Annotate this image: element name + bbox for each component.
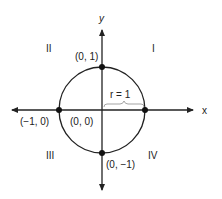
point-left-label: (−1, 0) <box>20 116 49 127</box>
origin-label: (0, 0) <box>70 116 93 127</box>
quadrant-ii-label: II <box>46 43 52 54</box>
radius-brace <box>104 101 144 107</box>
quadrant-i-label: I <box>152 43 155 54</box>
point-left <box>56 107 62 113</box>
x-axis-label: x <box>202 105 207 116</box>
unit-circle-diagram: y x II I III IV (0, 1) (0, −1) (−1, 0) (… <box>0 0 222 199</box>
quadrant-iii-label: III <box>46 150 54 161</box>
point-bottom-label: (0, −1) <box>106 159 135 170</box>
point-top-label: (0, 1) <box>75 51 98 62</box>
y-axis-label: y <box>98 13 105 24</box>
radius-label: r = 1 <box>110 89 131 100</box>
point-top <box>99 64 105 70</box>
point-bottom <box>99 150 105 156</box>
quadrant-iv-label: IV <box>148 150 158 161</box>
point-right <box>142 107 148 113</box>
